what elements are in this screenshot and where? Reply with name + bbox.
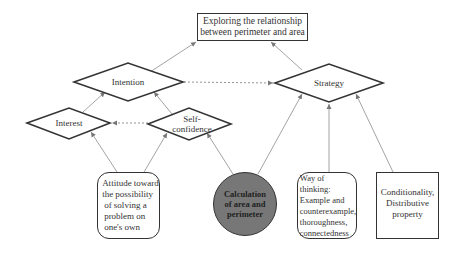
edge-strategy-to-title [271,42,302,70]
self-confidence-line-1: Self- [160,114,224,124]
intention-label: Intention [98,77,158,87]
attitude-line: one's own [102,222,159,233]
edge-calculation-to-strategy [258,94,302,174]
attitude-line: problem on [102,211,159,222]
interest-label: Interest [39,118,99,128]
way-line: connectedness [300,228,356,239]
edge-attitude-to-selfconfidence [144,133,167,172]
edge-calculation-to-selfconfidence [207,133,233,174]
strategy-label: Strategy [299,78,359,88]
title-line-1: Exploring the relationship [200,16,305,27]
edge-intention-to-title [150,42,196,72]
conditionality-line: Distributive [381,198,435,209]
edge-attitude-to-interest [91,132,117,172]
calculation-line: Calculation [224,189,266,199]
way-line: counterexample, [300,206,356,217]
conditionality-box: Conditionality, Distributive property [376,172,439,239]
edge-intention-to-strategy [184,82,273,83]
way-line: thoroughness, [300,217,356,228]
edge-conditionality-to-strategy [356,94,393,172]
conditionality-line: property [381,209,435,220]
attitude-line: the possibility [102,189,159,200]
edge-selfconfidence-to-intention [154,92,172,114]
title-line-2: between perimeter and area [200,27,305,38]
calculation-circle: Calculation of area and perimeter [213,172,277,236]
conditionality-line: Conditionality, [381,187,435,198]
way-line: Example and [300,195,356,206]
self-confidence-label: Self- confidence [160,114,224,134]
calculation-line: of area and [224,199,266,209]
way-of-thinking-box: Way of thinking: Example and counterexam… [297,172,357,239]
attitude-line: Attitude toward [102,178,159,189]
attitude-line: of solving a [102,200,159,211]
attitude-box: Attitude toward the possibility of solvi… [97,172,160,239]
edge-interest-to-intention [83,92,105,112]
calculation-line: perimeter [224,209,266,219]
self-confidence-line-2: confidence [160,124,224,134]
way-line: Way of thinking: [300,173,356,195]
title-box: Exploring the relationship between perim… [197,13,308,41]
